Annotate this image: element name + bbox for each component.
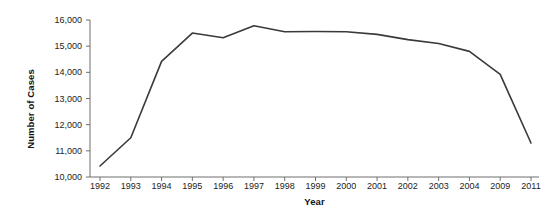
axes-group <box>90 20 539 177</box>
y-axis-title: Number of Cases <box>22 0 38 218</box>
y-tick-label: 11,000 <box>38 146 82 156</box>
y-tick-label: 13,000 <box>38 94 82 104</box>
y-tick-label: 10,000 <box>38 172 82 182</box>
line-chart-svg <box>90 20 539 177</box>
chart-figure: Number of Cases 10,00011,00012,00013,000… <box>0 0 558 218</box>
y-tick-label: 15,000 <box>38 41 82 51</box>
x-tick-label: 2011 <box>511 181 551 191</box>
y-tick-label: 14,000 <box>38 67 82 77</box>
x-axis-title: Year <box>90 196 539 207</box>
x-axis-tick-labels: 1992199319941995199619971998199920002001… <box>90 181 539 195</box>
y-tick-label: 12,000 <box>38 120 82 130</box>
data-line-number-of-cases <box>100 26 531 166</box>
plot-area <box>90 20 539 177</box>
y-tick-label: 16,000 <box>38 15 82 25</box>
y-axis-tick-labels: 10,00011,00012,00013,00014,00015,00016,0… <box>38 20 82 177</box>
y-axis-ticks <box>86 20 90 177</box>
